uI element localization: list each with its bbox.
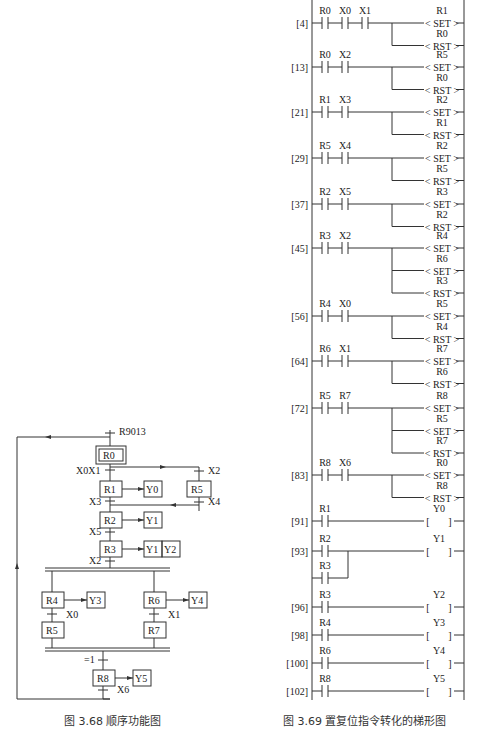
- sfc-action-y0: Y0: [146, 484, 158, 495]
- coil-bracket-left: [: [426, 630, 429, 641]
- sfc-step-r1: R1: [104, 484, 116, 495]
- output-device-r1: R1: [436, 117, 448, 128]
- instr-rst: < RST >: [425, 379, 460, 390]
- sfc-transition-x6: X6: [117, 684, 129, 695]
- output-device-r4: R4: [436, 321, 448, 332]
- contact-x1: X1: [359, 5, 371, 16]
- coil-bracket-left: [: [426, 516, 429, 527]
- coil-bracket-right: ]: [448, 630, 451, 641]
- sfc-action-y2: Y2: [164, 544, 176, 555]
- contact-r0: R0: [319, 49, 331, 60]
- contact-r8: R8: [319, 673, 331, 684]
- sfc-action-y3: Y3: [89, 595, 101, 606]
- contact-x1: X1: [339, 343, 351, 354]
- coil-bracket-right: ]: [448, 658, 451, 669]
- rung-address: [56]: [291, 311, 308, 322]
- contact-r3: R3: [319, 589, 331, 600]
- sfc-step-r5: R5: [46, 625, 58, 636]
- sfc-step-r0: R0: [103, 450, 115, 461]
- coil-bracket-right: ]: [448, 516, 451, 527]
- coil-y1: Y1: [433, 533, 445, 544]
- ladder-diagram: [4]R0X0X1R1< SET >R0< RST >[13]R0X2R5< S…: [238, 0, 488, 710]
- rung-address: [91]: [291, 516, 308, 527]
- sequential-function-chart: R9013 R0 X0X1 X2 R1 Y0 R5 X3 X4 R2 Y1 X5…: [0, 0, 240, 755]
- sfc-transition-eq1: =1: [84, 654, 95, 665]
- output-device-r3: R3: [436, 275, 448, 286]
- coil-y3: Y3: [433, 617, 445, 628]
- sfc-step-r5-alt: R5: [191, 484, 203, 495]
- coil-bracket-left: [: [426, 546, 429, 557]
- instr-rst: < RST >: [425, 176, 460, 187]
- contact-x5: X5: [339, 186, 351, 197]
- sfc-step-r8: R8: [97, 673, 109, 684]
- coil-y4: Y4: [433, 645, 445, 656]
- coil-bracket-left: [: [426, 658, 429, 669]
- sfc-step-r4: R4: [46, 595, 58, 606]
- output-device-r4: R4: [436, 230, 448, 241]
- rung-address: [13]: [291, 62, 308, 73]
- rung-address: [45]: [291, 243, 308, 254]
- output-device-r8: R8: [436, 480, 448, 491]
- contact-r1: R1: [319, 503, 331, 514]
- contact-r6: R6: [319, 645, 331, 656]
- coil-y0: Y0: [433, 503, 445, 514]
- sfc-transition-x0: X0: [66, 609, 78, 620]
- output-device-r2: R2: [436, 94, 448, 105]
- output-device-r5: R5: [436, 413, 448, 424]
- contact-r5: R5: [319, 140, 331, 151]
- instr-rst: < RST >: [425, 493, 460, 504]
- output-device-r7: R7: [436, 343, 448, 354]
- ladder-caption: 图 3.69 置复位指令转化的梯形图: [283, 712, 447, 728]
- contact-r8: R8: [319, 457, 331, 468]
- output-device-r6: R6: [436, 366, 448, 377]
- sfc-step-r6: R6: [148, 595, 160, 606]
- contact-parallel-r3: R3: [319, 560, 331, 571]
- contact-r5: R5: [319, 390, 331, 401]
- rung-address: [96]: [291, 602, 308, 613]
- output-device-r7: R7: [436, 435, 448, 446]
- sfc-transition-x4: X4: [208, 496, 220, 507]
- rung-address: [83]: [291, 470, 308, 481]
- rung-address: [64]: [291, 356, 308, 367]
- contact-x6: X6: [339, 457, 351, 468]
- output-device-r5: R5: [436, 163, 448, 174]
- contact-r6: R6: [319, 343, 331, 354]
- rung-address: [21]: [291, 107, 308, 118]
- rung-address: [93]: [291, 546, 308, 557]
- sfc-action-y1: Y1: [146, 515, 158, 526]
- coil-y2: Y2: [433, 589, 445, 600]
- output-device-r8: R8: [436, 390, 448, 401]
- output-device-r6: R6: [436, 253, 448, 264]
- output-device-r0: R0: [436, 28, 448, 39]
- output-device-r5: R5: [436, 49, 448, 60]
- contact-r7: R7: [339, 390, 351, 401]
- sfc-step-r7: R7: [148, 625, 160, 636]
- contact-x0: X0: [339, 5, 351, 16]
- contact-r4: R4: [319, 298, 331, 309]
- sfc-transition-x0x1: X0X1: [76, 465, 100, 476]
- sfc-transition-x2: X2: [208, 465, 220, 476]
- output-device-r1: R1: [436, 5, 448, 16]
- sfc-transition-x3: X3: [89, 496, 101, 507]
- output-device-r2: R2: [436, 140, 448, 151]
- sfc-init-condition: R9013: [119, 426, 146, 437]
- contact-x0: X0: [339, 298, 351, 309]
- coil-bracket-left: [: [426, 686, 429, 697]
- contact-r2: R2: [319, 533, 331, 544]
- contact-x4: X4: [339, 140, 351, 151]
- sfc-transition-x5: X5: [89, 526, 101, 537]
- rung-address: [37]: [291, 199, 308, 210]
- coil-bracket-right: ]: [448, 686, 451, 697]
- sfc-transition-x1: X1: [168, 609, 180, 620]
- coil-bracket-right: ]: [448, 546, 451, 557]
- contact-r0: R0: [319, 5, 331, 16]
- instr-rst: < RST >: [425, 130, 460, 141]
- sfc-action-y1-r3: Y1: [146, 544, 158, 555]
- coil-bracket-right: ]: [448, 602, 451, 613]
- output-device-r0: R0: [436, 457, 448, 468]
- sfc-caption: 图 3.68 顺序功能图: [64, 712, 162, 728]
- coil-bracket-left: [: [426, 602, 429, 613]
- rung-address: [102]: [286, 686, 308, 697]
- contact-x2: X2: [339, 230, 351, 241]
- sfc-step-r3: R3: [104, 544, 116, 555]
